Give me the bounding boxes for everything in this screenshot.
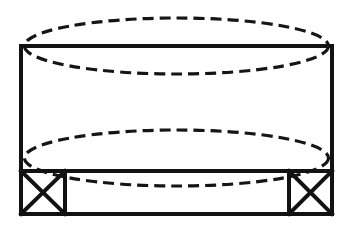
canvas-background: [0, 0, 351, 229]
line-drawing-svg: [0, 0, 351, 229]
figure-canvas: [0, 0, 351, 229]
